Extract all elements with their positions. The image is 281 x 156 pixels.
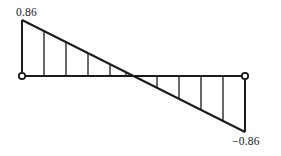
positive-ordinate-label: 0.86 [16, 7, 37, 19]
hatch-group-negative [157, 76, 223, 121]
right-support-icon [242, 73, 248, 79]
influence-line-diagram: 0.86 −0.86 [0, 0, 281, 156]
diagram-canvas [0, 0, 281, 156]
negative-ordinate-label: −0.86 [232, 136, 260, 148]
left-support-icon [19, 73, 25, 79]
